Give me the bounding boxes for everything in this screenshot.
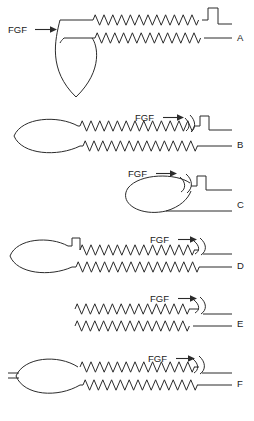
- panel-e: FGF E: [0, 285, 254, 340]
- notch-c: [191, 176, 232, 190]
- figure-canvas: FGF A FGF: [0, 0, 254, 421]
- panel-b: FGF B: [0, 105, 254, 167]
- fgf-arrow-b: [163, 114, 184, 120]
- release-arc-f: [193, 356, 204, 374]
- notch-b: [194, 116, 232, 130]
- loop-a: [55, 20, 96, 97]
- panel-d: FGF: [0, 225, 254, 285]
- zigzag-lower-b: [83, 141, 197, 151]
- panel-a-graphic: [0, 0, 254, 105]
- lower-strand-a: [64, 33, 232, 43]
- panel-letter-c: C: [237, 200, 244, 210]
- upper-strand-d: [80, 245, 232, 255]
- upper-strand-e: [75, 304, 232, 314]
- panel-letter-a: A: [237, 33, 243, 43]
- loop-f: [16, 359, 80, 393]
- lower-strand-b: [80, 141, 232, 151]
- release-arc-e: [194, 297, 205, 314]
- zigzag-lower-e: [75, 321, 189, 331]
- loop-d: [10, 240, 72, 273]
- panel-b-graphic: [0, 105, 254, 167]
- loop-b: [14, 119, 80, 152]
- panel-d-graphic: [0, 225, 254, 285]
- release-arc-c: [180, 174, 191, 193]
- zigzag-lower-f: [83, 380, 197, 390]
- lower-strand-f: [80, 380, 232, 390]
- panel-c-graphic: [0, 167, 254, 225]
- zigzag-lower-d: [76, 262, 199, 272]
- upper-strand-a: [60, 8, 232, 25]
- zigzag-upper-d: [80, 245, 194, 255]
- panel-f-graphic: [0, 340, 254, 421]
- panel-a: FGF A: [0, 0, 254, 105]
- panel-e-graphic: [0, 285, 254, 340]
- panel-c: FGF C: [0, 167, 254, 225]
- zigzag-upper-a: [93, 15, 199, 25]
- upper-strand-f: [80, 362, 232, 373]
- upper-strand-b: [78, 116, 232, 131]
- zigzag-upper-b: [80, 121, 194, 131]
- upper-strand-c: [191, 176, 232, 190]
- panel-letter-d: D: [237, 261, 244, 271]
- panel-letter-f: F: [237, 379, 243, 389]
- loop-c: [126, 176, 191, 212]
- lower-strand-d: [72, 262, 232, 272]
- zigzag-lower-a: [95, 33, 201, 43]
- lower-strand-e: [75, 321, 232, 331]
- panel-letter-e: E: [237, 319, 243, 329]
- fgf-arrow-a: [35, 26, 57, 32]
- notch-a: [202, 8, 232, 24]
- zigzag-upper-e: [75, 304, 189, 314]
- panel-letter-b: B: [237, 140, 243, 150]
- zigzag-upper-f: [80, 362, 194, 372]
- notch-d: [68, 238, 80, 250]
- fgf-arrow-f: [176, 355, 195, 361]
- release-arc-d: [194, 238, 205, 255]
- panel-f: FGF: [0, 340, 254, 421]
